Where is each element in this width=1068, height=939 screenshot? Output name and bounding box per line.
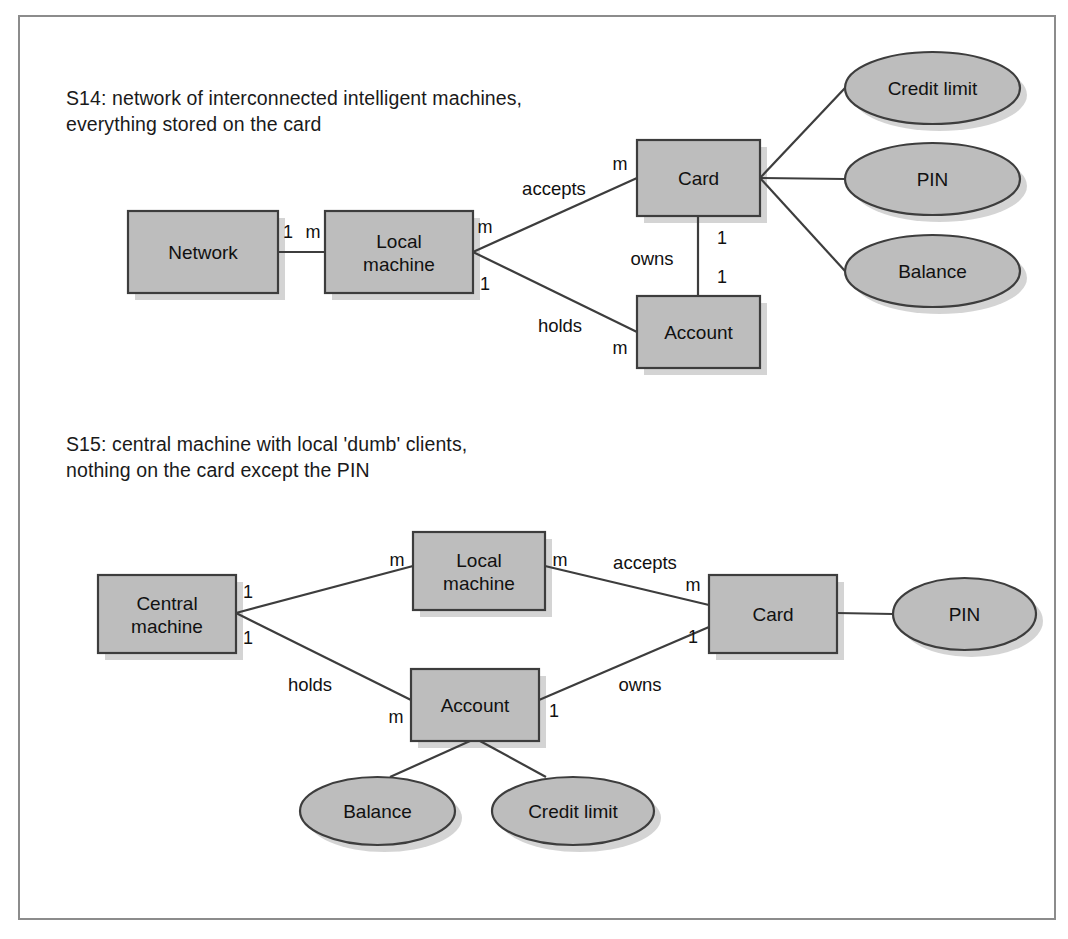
edge-label-card-account: owns — [630, 248, 673, 269]
edge-label-account-card: owns — [618, 674, 661, 695]
entity-label-account: Account — [664, 322, 733, 343]
cardinality-card-m: m — [613, 154, 628, 174]
cardinality-card-1: 1 — [688, 627, 698, 647]
edge-label-central-account: holds — [288, 674, 332, 695]
entity-label-pin: PIN — [949, 604, 981, 625]
diagram-s15: holdsacceptsownsCentralmachineLocalmachi… — [98, 532, 1043, 852]
entity-label-credit_limit: Credit limit — [528, 801, 618, 822]
entity-label-network: Network — [168, 242, 238, 263]
entity-label-credit_limit: Credit limit — [888, 78, 978, 99]
cardinality-central-up-1: 1 — [243, 582, 253, 602]
entity-label-pin: PIN — [917, 169, 949, 190]
cardinality-network-1: 1 — [283, 222, 293, 242]
entity-label-card: Card — [752, 604, 793, 625]
er-diagram-canvas: acceptsholdsownsNetworkLocalmachineCardA… — [0, 0, 1068, 939]
edge-label-local-card: accepts — [522, 178, 586, 199]
cardinality-local-dn-1: 1 — [480, 274, 490, 294]
cardinality-local-left-m: m — [390, 550, 405, 570]
entity-label-balance: Balance — [343, 801, 412, 822]
entity-label-balance: Balance — [898, 261, 967, 282]
entity-central_machine[interactable] — [98, 575, 236, 653]
edge-label-local-card: accepts — [613, 552, 677, 573]
entity-label-card: Card — [678, 168, 719, 189]
edge-label-local-account: holds — [538, 315, 582, 336]
cardinality-local-rt-m: m — [553, 550, 568, 570]
cardinality-card-m: m — [686, 575, 701, 595]
edge-central-local — [236, 566, 413, 613]
cardinality-acct-m: m — [613, 338, 628, 358]
cardinality-local-up-m: m — [478, 217, 493, 237]
cardinality-acct-1: 1 — [549, 701, 559, 721]
edge-card-credit — [760, 88, 845, 178]
diagram-s14: acceptsholdsownsNetworkLocalmachineCardA… — [128, 52, 1027, 375]
edge-card-pin — [760, 178, 845, 179]
cardinality-card-1: 1 — [717, 228, 727, 248]
cardinality-local-m: m — [306, 222, 321, 242]
edge-card-balance — [760, 178, 845, 271]
cardinality-acct-1: 1 — [717, 267, 727, 287]
edge-card-pin — [837, 613, 893, 614]
entity-local_machine[interactable] — [413, 532, 545, 610]
cardinality-central-dn-1: 1 — [243, 628, 253, 648]
entity-label-account: Account — [441, 695, 510, 716]
entity-local_machine[interactable] — [325, 211, 473, 293]
cardinality-acct-m: m — [389, 707, 404, 727]
